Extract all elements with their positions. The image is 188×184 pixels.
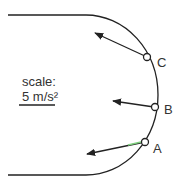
label-b: B <box>164 102 173 117</box>
point-a <box>142 139 149 146</box>
track-diagram: C B A scale: 5 m/s² <box>0 0 188 184</box>
label-c: C <box>157 55 166 70</box>
point-c <box>144 54 151 61</box>
scale-label: scale: <box>22 74 56 89</box>
label-a: A <box>153 141 162 156</box>
acceleration-vector-b <box>113 101 154 107</box>
scale-value: 5 m/s² <box>22 89 59 104</box>
acceleration-vector-c <box>95 33 147 57</box>
point-b <box>152 104 159 111</box>
